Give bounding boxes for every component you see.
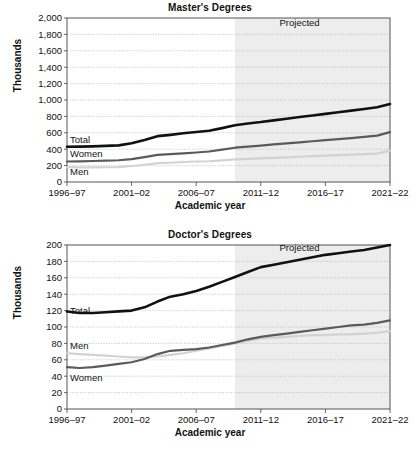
x-tick-label: 2006–07 — [178, 414, 215, 425]
x-tick-label: 2021–22 — [372, 414, 409, 425]
x-tick-label: 2011–12 — [243, 414, 279, 425]
y-tick-label: 1,000 — [38, 94, 62, 105]
projected-annotation: Projected — [279, 17, 319, 28]
series-label-men: Men — [70, 166, 88, 177]
y-tick-label: 180 — [46, 256, 62, 267]
y-tick-label: 160 — [46, 272, 62, 283]
series-label-total: Total — [70, 305, 90, 316]
y-tick-label: 20 — [51, 387, 62, 398]
y-tick-label: 60 — [51, 354, 62, 365]
chart-panel-doctors-degrees: Doctor's Degrees Thousands Academic year… — [0, 227, 420, 454]
x-tick-label: 2006–07 — [178, 187, 215, 198]
x-tick-label: 2016–17 — [307, 414, 344, 425]
y-tick-label: 140 — [46, 289, 62, 300]
y-tick-label: 40 — [51, 371, 62, 382]
y-tick-label: 1,600 — [38, 45, 62, 56]
y-tick-label: 400 — [46, 144, 62, 155]
plot-area-doctors: 0204060801001201401601802001996–972001–0… — [0, 227, 420, 454]
x-tick-label: 2001–02 — [113, 414, 150, 425]
y-tick-label: 0 — [57, 176, 62, 187]
series-label-total: Total — [70, 134, 90, 145]
y-tick-label: 1,800 — [38, 29, 62, 40]
chart-panel-masters-degrees: Master's Degrees Thousands Academic year… — [0, 0, 420, 227]
y-tick-label: 80 — [51, 338, 62, 349]
x-tick-label: 2021–22 — [372, 187, 409, 198]
series-label-women: Women — [70, 372, 103, 383]
series-label-men: Men — [70, 340, 88, 351]
projected-annotation: Projected — [279, 242, 319, 253]
y-tick-label: 0 — [57, 403, 62, 414]
plot-area-masters: 02004006008001,0001,2001,4001,6001,8002,… — [0, 0, 420, 227]
y-tick-label: 800 — [46, 111, 62, 122]
y-tick-label: 1,400 — [38, 62, 62, 73]
y-tick-label: 600 — [46, 127, 62, 138]
series-label-women: Women — [70, 148, 103, 159]
x-tick-label: 2011–12 — [243, 187, 279, 198]
y-tick-label: 200 — [46, 160, 62, 171]
x-tick-label: 1996–97 — [49, 414, 86, 425]
x-tick-label: 1996–97 — [49, 187, 86, 198]
y-tick-label: 100 — [46, 321, 62, 332]
y-tick-label: 200 — [46, 239, 62, 250]
x-tick-label: 2016–17 — [307, 187, 344, 198]
y-tick-label: 120 — [46, 305, 62, 316]
y-tick-label: 2,000 — [38, 12, 62, 23]
y-tick-label: 1,200 — [38, 78, 62, 89]
x-tick-label: 2001–02 — [113, 187, 150, 198]
